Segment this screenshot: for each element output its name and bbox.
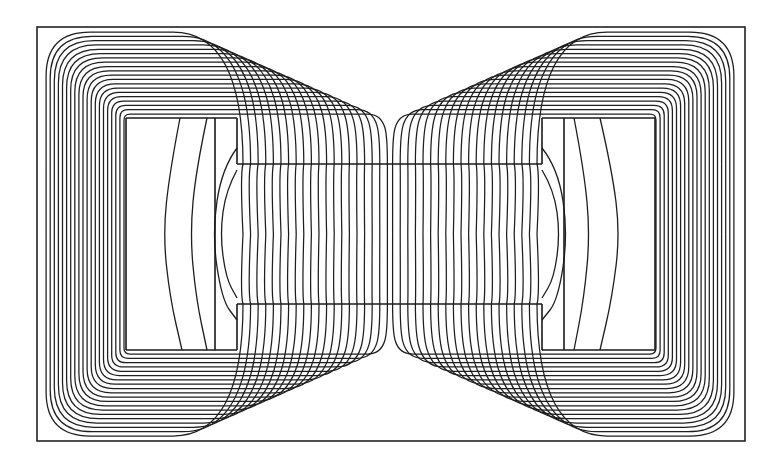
flux-loops <box>46 32 734 436</box>
flux-plot-canvas <box>0 0 780 469</box>
window-right-area <box>543 119 654 349</box>
flux-diagram: Magnetic flux line plot of shell-type co… <box>0 0 780 469</box>
window-left-area <box>127 119 236 349</box>
